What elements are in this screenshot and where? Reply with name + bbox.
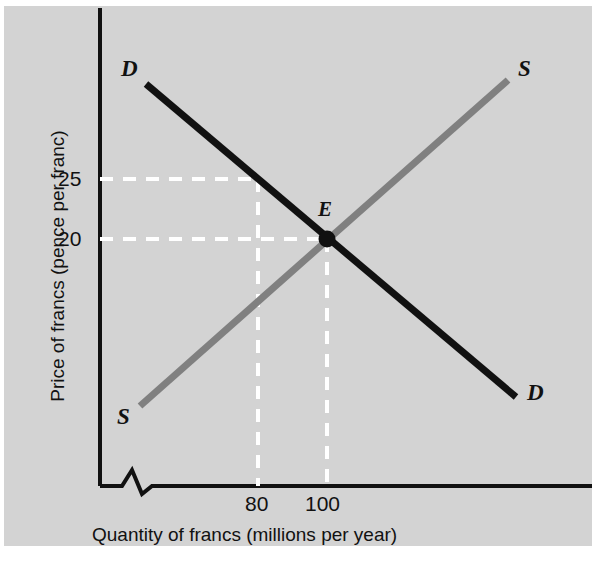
demand-curve-label-lower: D [527,380,544,406]
x-tick-label-80: 80 [245,492,268,516]
x-axis-line-with-break [100,470,592,494]
equilibrium-point-label: E [318,197,332,222]
supply-curve-label-lower: S [117,404,130,430]
chart-canvas [0,0,606,572]
demand-curve-label-upper: D [121,56,138,82]
x-axis-title: Quantity of francs (millions per year) [92,524,397,546]
supply-demand-chart-figure: 25 20 80 100 D D S S E Quantity of franc… [0,0,606,572]
x-tick-label-100: 100 [305,492,340,516]
supply-curve-label-upper: S [518,56,531,82]
y-axis-title: Price of francs (pence per franc) [47,76,69,456]
equilibrium-point-marker [319,231,336,248]
